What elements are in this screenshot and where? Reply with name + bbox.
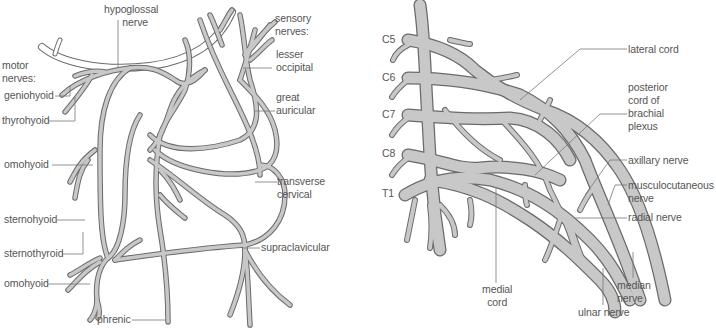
label-root-c8: C8 (382, 147, 395, 160)
label-line: cord of (628, 94, 668, 107)
label-radial-nerve: radial nerve (628, 211, 682, 224)
label-hypoglossal-nerve: hypoglossal nerve (104, 3, 158, 29)
label-sensory-nerves: sensory nerves: (275, 12, 311, 38)
label-line: lesser (276, 48, 313, 61)
label-great-auricular: great auricular (276, 91, 315, 117)
label-line: posterior (628, 81, 668, 94)
label-thyrohyoid: thyrohyoid (2, 114, 49, 127)
label-supraclavicular: supraclavicular (261, 241, 330, 254)
label-line: brachial (628, 107, 668, 120)
label-line: nerve (628, 192, 714, 205)
label-line: occipital (276, 61, 313, 74)
label-root-c6: C6 (382, 71, 395, 84)
label-omohyoid-upper: omohyoid (4, 158, 49, 171)
label-omohyoid-lower: omohyoid (4, 277, 49, 290)
label-line: motor (2, 59, 36, 72)
label-line: median (617, 279, 651, 292)
label-phrenic: phrenic (97, 313, 131, 326)
label-sternothyroid: sternothyroid (4, 247, 63, 260)
label-geniohyoid: geniohyoid (4, 89, 54, 102)
label-line: great (276, 91, 315, 104)
cervical-plexus-diagram (0, 0, 716, 333)
label-posterior-cord: posterior cord of brachial plexus (628, 81, 668, 133)
label-line: auricular (276, 104, 315, 117)
label-sternohyoid: sternohyoid (4, 213, 57, 226)
label-line: transverse (277, 175, 325, 188)
label-root-c5: C5 (382, 33, 395, 46)
brachial-plexus-nerves (392, 5, 665, 312)
label-root-c7: C7 (382, 108, 395, 121)
label-line: nerve (617, 292, 651, 305)
label-motor-nerves: motor nerves: (2, 59, 36, 85)
label-root-t1: T1 (382, 187, 394, 200)
label-line: nerves: (2, 72, 36, 85)
label-line: cord (482, 296, 512, 309)
label-transverse-cervical: transverse cervical (277, 175, 325, 201)
label-medial-cord: medial cord (482, 283, 512, 309)
label-line: cervical (277, 188, 325, 201)
label-musculocutaneous-nerve: musculocutaneous nerve (628, 179, 714, 205)
label-line: sensory (275, 12, 311, 25)
label-line: musculocutaneous (628, 179, 714, 192)
label-line: medial (482, 283, 512, 296)
label-line: plexus (628, 120, 668, 133)
label-line: nerve (104, 16, 158, 29)
label-ulnar-nerve: ulnar nerve (578, 306, 629, 319)
label-axillary-nerve: axillary nerve (628, 154, 688, 167)
label-line: nerves: (275, 25, 311, 38)
anatomy-figure: hypoglossal nerve motor nerves: geniohyo… (0, 0, 716, 333)
label-line: hypoglossal (104, 3, 158, 16)
label-lesser-occipital: lesser occipital (276, 48, 313, 74)
label-lateral-cord: lateral cord (628, 43, 679, 56)
label-median-nerve: median nerve (617, 279, 651, 305)
